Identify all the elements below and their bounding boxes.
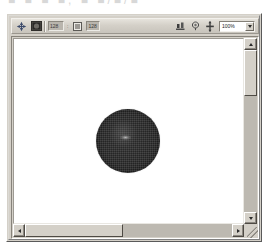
horizontal-scrollbar[interactable] bbox=[13, 224, 244, 237]
vertical-scrollbar-thumb[interactable] bbox=[244, 50, 257, 96]
sphere-rim-light bbox=[96, 109, 160, 173]
sphere-specular-highlight bbox=[120, 135, 131, 140]
window-inner-frame: 128 : 128 bbox=[8, 15, 260, 240]
horizontal-scroll-left-button[interactable] bbox=[13, 224, 25, 237]
zoom-combobox[interactable]: 100% bbox=[219, 21, 255, 32]
hand-tool-icon[interactable] bbox=[204, 20, 216, 32]
rendered-sphere bbox=[96, 109, 160, 173]
image-editor-window: 128 : 128 bbox=[6, 13, 262, 242]
screenshot-root: ■ ■ ■ ■, ■ ■/■/■ bbox=[0, 0, 268, 249]
vertical-scroll-up-button[interactable] bbox=[244, 38, 257, 50]
image-canvas[interactable] bbox=[13, 38, 244, 224]
main-toolbar: 128 : 128 bbox=[11, 18, 259, 34]
measure-tool-icon[interactable] bbox=[174, 20, 186, 32]
vertical-scroll-down-button[interactable] bbox=[244, 212, 257, 224]
color-picker-icon[interactable] bbox=[189, 20, 201, 32]
coordinate-separator: : bbox=[67, 23, 68, 29]
cut-off-caption-strip: ■ ■ ■ ■, ■ ■/■/■ bbox=[0, 0, 268, 13]
canvas-area bbox=[11, 36, 259, 239]
horizontal-scrollbar-thumb[interactable] bbox=[25, 224, 123, 237]
arrow-left-icon bbox=[18, 229, 21, 233]
arrow-right-icon bbox=[237, 229, 240, 233]
chevron-down-icon bbox=[248, 25, 252, 28]
arrow-up-icon bbox=[249, 43, 253, 46]
toolbar-separator-1 bbox=[44, 21, 46, 32]
horizontal-scroll-right-button[interactable] bbox=[232, 224, 244, 237]
move-arrow-icon[interactable] bbox=[15, 20, 27, 32]
vertical-scrollbar[interactable] bbox=[244, 38, 257, 224]
layer-icon[interactable] bbox=[71, 20, 83, 32]
coordinate-field-y[interactable]: 128 bbox=[86, 21, 100, 31]
window-resize-grip[interactable] bbox=[247, 227, 258, 238]
zoom-value-label: 100% bbox=[220, 22, 245, 31]
zoom-dropdown-button[interactable] bbox=[245, 22, 254, 31]
coordinate-field-x[interactable]: 128 bbox=[48, 21, 64, 31]
arrow-down-icon bbox=[249, 217, 253, 220]
cut-off-caption-text: ■ ■ ■ ■, ■ ■/■/■ bbox=[8, 0, 141, 7]
image-thumbnail-icon[interactable] bbox=[30, 20, 42, 32]
